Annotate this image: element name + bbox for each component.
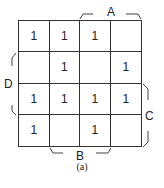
cell-r0c1: 1 <box>50 21 81 52</box>
figure-caption: (a) <box>0 161 164 172</box>
bracket-d-top <box>12 53 16 66</box>
bracket-a-right <box>126 14 141 19</box>
bracket-a-left <box>80 14 93 19</box>
cell-r1c0 <box>19 52 50 83</box>
cell-r0c3 <box>111 21 142 52</box>
label-d: D <box>4 77 13 91</box>
cell-r2c1: 1 <box>50 84 81 115</box>
cell-r3c3 <box>111 115 142 146</box>
label-c: C <box>145 109 154 123</box>
cell-r1c1: 1 <box>50 52 81 83</box>
karnaugh-map: 1 1 1 1 1 1 1 1 1 1 1 <box>18 20 142 147</box>
bracket-c-bottom <box>143 131 148 147</box>
bracket-b-right <box>96 148 111 153</box>
cell-r1c2 <box>80 52 111 83</box>
cell-r0c2: 1 <box>80 21 111 52</box>
cell-r3c2: 1 <box>80 115 111 146</box>
cell-r3c1 <box>50 115 81 146</box>
cell-r2c3: 1 <box>111 84 142 115</box>
cell-r2c0: 1 <box>19 84 50 115</box>
bracket-b-left <box>50 148 63 153</box>
bracket-d-bottom <box>12 105 16 115</box>
cell-r1c3: 1 <box>111 52 142 83</box>
cell-r3c0: 1 <box>19 115 50 146</box>
label-a: A <box>107 5 115 19</box>
bracket-c-top <box>143 84 148 100</box>
cell-r2c2: 1 <box>80 84 111 115</box>
cell-r0c0: 1 <box>19 21 50 52</box>
